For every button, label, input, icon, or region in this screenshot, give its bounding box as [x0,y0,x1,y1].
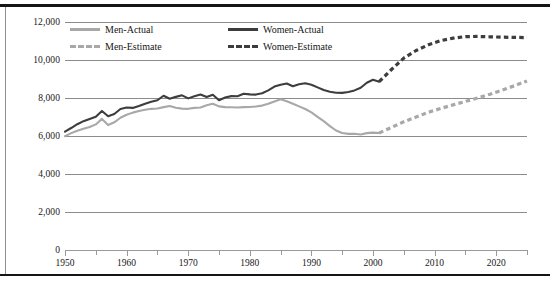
legend-label: Women-Actual [263,24,324,35]
legend-swatch [228,28,258,31]
y-tick-label: 6,000 [38,131,60,141]
chart-legend: Men-ActualWomen-ActualMen-EstimateWomen-… [70,24,400,58]
x-tick-label: 1960 [117,258,136,268]
legend-swatch [70,45,100,48]
x-tick [373,250,374,256]
legend-item-men-actual[interactable]: Men-Actual [70,24,153,35]
legend-swatch [228,45,258,48]
x-tick-minor [219,250,220,255]
legend-label: Men-Estimate [105,41,162,52]
y-tick-label: 10,000 [33,55,60,65]
x-tick-minor [342,250,343,255]
y-tick-label: 8,000 [38,93,60,103]
y-axis-labels: 02,0004,0006,0008,00010,00012,000 [0,22,60,250]
x-tick-label: 2020 [487,258,506,268]
x-tick [127,250,128,256]
legend-swatch [70,28,100,31]
x-tick [250,250,251,256]
x-tick-minor [465,250,466,255]
x-tick-minor [281,250,282,255]
series-line-men-actual [65,99,379,136]
x-tick [65,250,66,256]
series-line-men-estimate [379,81,527,133]
chart-figure: Number 02,0004,0006,0008,00010,00012,000… [0,0,550,285]
x-tick-minor [527,250,528,255]
x-tick [435,250,436,256]
y-tick-label: 0 [55,245,60,255]
x-tick-label: 1980 [240,258,259,268]
x-tick-label: 2000 [364,258,383,268]
x-axis-line [65,250,527,251]
legend-item-women-estimate[interactable]: Women-Estimate [228,41,332,52]
series-line-women-estimate [379,36,527,81]
legend-item-men-estimate[interactable]: Men-Estimate [70,41,162,52]
x-tick-label: 1970 [179,258,198,268]
x-tick [496,250,497,256]
legend-label: Women-Estimate [263,41,332,52]
x-tick-minor [96,250,97,255]
x-tick [188,250,189,256]
y-tick-label: 2,000 [38,207,60,217]
x-tick-label: 1950 [56,258,75,268]
x-tick-minor [404,250,405,255]
legend-item-women-actual[interactable]: Women-Actual [228,24,324,35]
legend-label: Men-Actual [105,24,153,35]
bottom-rule [0,274,550,276]
x-tick [311,250,312,256]
y-tick-label: 12,000 [33,17,60,27]
x-tick-label: 1990 [302,258,321,268]
x-tick-label: 2010 [425,258,444,268]
top-rule [0,4,550,7]
x-tick-minor [157,250,158,255]
y-tick-label: 4,000 [38,169,60,179]
